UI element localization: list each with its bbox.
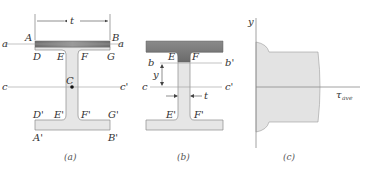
point-label-E: E [56, 51, 65, 62]
t-label: t [204, 90, 209, 101]
point-label-B: B [111, 32, 119, 43]
i-section-b [146, 52, 223, 130]
top-flange-shaded [146, 41, 223, 62]
figure-b: b b' c c' y t E F E' F' (b) [142, 41, 234, 162]
axis-label-c-left: c [2, 81, 8, 92]
axis-label-a-left: a [2, 38, 8, 49]
y-arrow-down-icon [160, 82, 164, 86]
y-axis-label: y [247, 16, 254, 27]
caption-b: (b) [177, 152, 190, 162]
point-label-F: F [80, 51, 89, 62]
caption-c: (c) [283, 152, 296, 162]
point-label-B-prime: B' [107, 132, 118, 143]
axis-label-c-right: c' [120, 81, 128, 92]
point-label-E-prime: E' [53, 109, 64, 120]
point-label-A: A [24, 32, 32, 43]
axis-label-b-left: b [148, 57, 154, 68]
y-arrow-up-icon [160, 64, 164, 68]
point-label-G-prime: G' [108, 109, 119, 120]
axis-label-c-left-b: c [142, 81, 148, 92]
x-axis-label-sub: ave [342, 94, 353, 101]
point-label-E-prime-b: E' [165, 109, 176, 120]
point-label-F-prime: F' [80, 109, 91, 120]
figure-a: t a a c c' C A B D E F G D' E' F' G' A' … [2, 14, 128, 162]
axis-label-c-right-b: c' [225, 81, 233, 92]
t-arrow-left-icon [174, 94, 178, 98]
point-label-A-prime: A' [32, 132, 43, 143]
point-label-D: D [32, 51, 41, 62]
point-label-G: G [107, 51, 115, 62]
dimension-label-t: t [70, 15, 75, 26]
point-label-F-b: F [191, 51, 200, 62]
caption-a: (a) [64, 152, 77, 162]
centroid-label: C [66, 75, 74, 86]
t-arrow-right-icon [190, 94, 194, 98]
shear-stress-diagram: t a a c c' C A B D E F G D' E' F' G' A' … [0, 0, 374, 169]
point-label-D-prime: D' [32, 109, 44, 120]
y-label: y [152, 69, 159, 80]
figure-c: y τ ave (c) [247, 16, 360, 162]
point-label-F-prime-b: F' [193, 109, 204, 120]
axis-label-b-right: b' [225, 57, 234, 68]
point-label-E-b: E [167, 51, 176, 62]
